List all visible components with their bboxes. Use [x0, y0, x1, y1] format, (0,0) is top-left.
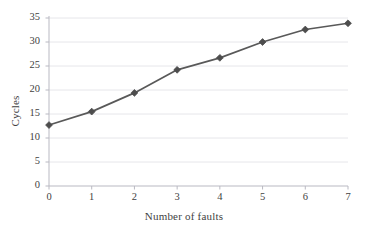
y-tick-marks — [46, 18, 50, 186]
x-axis-title: Number of faults — [0, 210, 368, 222]
x-tick-label: 3 — [167, 191, 187, 202]
x-tick-label: 2 — [124, 191, 144, 202]
x-tick-label: 4 — [210, 191, 230, 202]
data-point-markers — [46, 20, 352, 129]
x-tick-label: 7 — [338, 191, 358, 202]
axis-lines — [49, 16, 348, 186]
y-tick-label: 30 — [18, 35, 40, 46]
y-tick-label: 15 — [18, 107, 40, 118]
line-chart: 05101520253035 01234567 Cycles Number of… — [0, 0, 368, 233]
y-tick-label: 35 — [18, 11, 40, 22]
x-tick-marks — [49, 186, 348, 190]
x-tick-label: 1 — [82, 191, 102, 202]
y-tick-label: 20 — [18, 83, 40, 94]
gridlines — [49, 18, 348, 162]
y-tick-label: 25 — [18, 59, 40, 70]
y-tick-label: 0 — [18, 179, 40, 190]
y-tick-label: 5 — [18, 155, 40, 166]
x-tick-label: 0 — [39, 191, 59, 202]
y-tick-label: 10 — [18, 131, 40, 142]
x-tick-label: 5 — [253, 191, 273, 202]
x-tick-label: 6 — [295, 191, 315, 202]
y-axis-title: Cycles — [9, 83, 21, 139]
